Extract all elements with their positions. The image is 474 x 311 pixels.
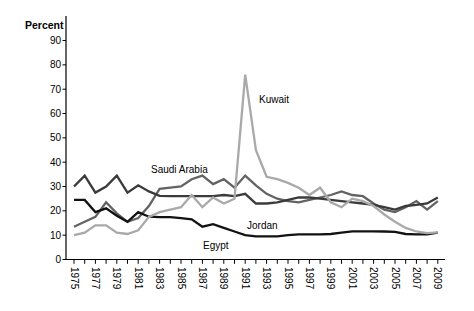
x-tick-label: 1999 bbox=[325, 267, 336, 290]
x-tick-label: 1987 bbox=[197, 267, 208, 290]
x-tick-label: 2003 bbox=[368, 267, 379, 290]
series-line-jordan bbox=[74, 176, 438, 210]
x-tick-label: 1977 bbox=[90, 267, 101, 290]
x-tick-label: 1991 bbox=[240, 267, 251, 290]
y-tick-label: 50 bbox=[50, 132, 62, 143]
x-tick-label: 1975 bbox=[69, 267, 80, 290]
y-tick-label: 90 bbox=[50, 35, 62, 46]
series-label-kuwait: Kuwait bbox=[259, 94, 289, 105]
y-tick-label: 10 bbox=[50, 230, 62, 241]
x-tick-label: 2005 bbox=[390, 267, 401, 290]
x-tick-label: 1995 bbox=[283, 267, 294, 290]
x-tick-label: 1993 bbox=[261, 267, 272, 290]
y-tick-label: 80 bbox=[50, 59, 62, 70]
y-tick-label: 40 bbox=[50, 157, 62, 168]
line-chart: 0102030405060708090Percent19751977197919… bbox=[0, 0, 474, 311]
x-ticks: 1975197719791981198319851987198919911993… bbox=[69, 260, 444, 290]
series-label-saudi-arabia: Saudi Arabia bbox=[151, 164, 208, 175]
x-tick-label: 1989 bbox=[218, 267, 229, 290]
x-tick-label: 1983 bbox=[154, 267, 165, 290]
y-tick-label: 20 bbox=[50, 205, 62, 216]
y-tick-label: 0 bbox=[55, 254, 61, 265]
x-tick-label: 1981 bbox=[133, 267, 144, 290]
y-tick-label: 60 bbox=[50, 108, 62, 119]
x-tick-label: 2007 bbox=[411, 267, 422, 290]
y-ticks: 0102030405060708090 bbox=[50, 35, 66, 265]
y-tick-label: 70 bbox=[50, 84, 62, 95]
chart-figure: 0102030405060708090Percent19751977197919… bbox=[0, 0, 474, 311]
series-label-jordan: Jordan bbox=[247, 220, 278, 231]
y-tick-label: 30 bbox=[50, 181, 62, 192]
y-axis-title: Percent bbox=[25, 19, 64, 31]
x-tick-label: 1985 bbox=[176, 267, 187, 290]
series-lines bbox=[74, 75, 438, 237]
series-label-egypt: Egypt bbox=[203, 240, 229, 251]
x-tick-label: 2001 bbox=[347, 267, 358, 290]
x-tick-label: 1997 bbox=[304, 267, 315, 290]
series-line-kuwait bbox=[74, 75, 438, 236]
x-tick-label: 2009 bbox=[432, 267, 443, 290]
x-tick-label: 1979 bbox=[111, 267, 122, 290]
